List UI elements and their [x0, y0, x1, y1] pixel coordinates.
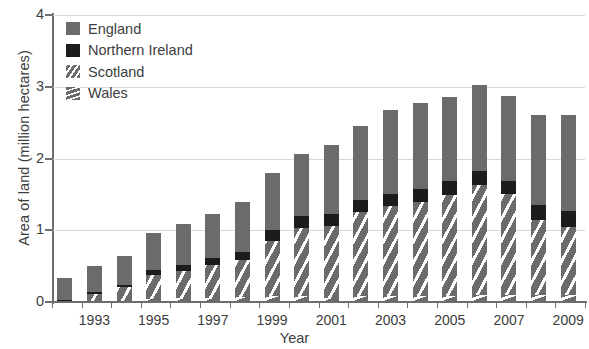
legend-swatch-icon: [66, 44, 80, 57]
x-tick-mark: [259, 301, 260, 308]
x-tick-mark: [141, 301, 142, 308]
bar-segment: [383, 194, 398, 206]
bar-segment: [146, 270, 161, 275]
bar-segment: [324, 214, 339, 226]
bar-stack: [265, 15, 280, 302]
bar-segment: [294, 216, 309, 228]
bar-segment: [235, 297, 250, 302]
bar-segment: [87, 294, 102, 301]
bar-segment: [501, 295, 516, 302]
legend-swatch-icon: [66, 22, 80, 35]
x-tick-label: 1997: [197, 312, 228, 328]
bar-segment: [265, 296, 280, 302]
y-tick-label: 0: [22, 294, 44, 309]
y-tick-mark: [45, 229, 53, 231]
bar-stack: [442, 15, 457, 302]
x-tick-mark: [289, 301, 290, 308]
bar-stack: [531, 15, 546, 302]
bar-segment: [57, 278, 72, 300]
bar-segment: [353, 126, 368, 201]
x-axis-title: Year: [0, 330, 589, 346]
bar-segment: [205, 298, 220, 302]
bar-segment: [531, 205, 546, 220]
bar-stack: [324, 15, 339, 302]
bar-stack: [472, 15, 487, 302]
bar-segment: [205, 258, 220, 264]
legend-item: Scotland: [66, 61, 256, 83]
bar-segment: [57, 301, 72, 302]
x-tick-mark: [230, 301, 231, 308]
bar-segment: [235, 252, 250, 260]
y-tick-label: 4: [22, 7, 44, 22]
bar-segment: [87, 301, 102, 302]
x-tick-label: 2005: [434, 312, 465, 328]
x-tick-mark: [170, 301, 171, 308]
bar-segment: [176, 224, 191, 266]
x-tick-label: 2007: [493, 312, 524, 328]
y-tick-label: 3: [22, 79, 44, 94]
bar-segment: [472, 185, 487, 295]
bar-segment: [117, 256, 132, 285]
bar-segment: [531, 220, 546, 295]
bar-segment: [57, 300, 72, 301]
legend-swatch-icon: [66, 87, 80, 100]
bar-stack: [501, 15, 516, 302]
bar-segment: [265, 241, 280, 296]
legend-item: Northern Ireland: [66, 40, 256, 62]
bar-segment: [501, 194, 516, 295]
bar-segment: [176, 298, 191, 302]
bar-segment: [294, 154, 309, 216]
bar-segment: [472, 171, 487, 185]
bar-segment: [294, 228, 309, 296]
bar-segment: [117, 287, 132, 301]
bar-segment: [442, 195, 457, 295]
x-tick-mark: [319, 301, 320, 308]
bar-segment: [87, 292, 102, 294]
legend-item: Wales: [66, 83, 256, 105]
bar-segment: [87, 266, 102, 292]
x-tick-mark: [585, 301, 586, 308]
bar-segment: [413, 103, 428, 188]
x-tick-mark: [437, 301, 438, 308]
bar-segment: [561, 295, 576, 302]
y-tick-label: 1: [22, 222, 44, 237]
x-tick-mark: [111, 301, 112, 308]
x-tick-label: 1995: [138, 312, 169, 328]
bar-segment: [353, 296, 368, 302]
legend-item: England: [66, 18, 256, 40]
legend-item-label: Scotland: [88, 65, 144, 80]
bar-segment: [117, 301, 132, 302]
x-tick-label: 1993: [79, 312, 110, 328]
x-tick-mark: [467, 301, 468, 308]
x-tick-label: 1999: [257, 312, 288, 328]
bar-segment: [324, 298, 339, 302]
x-tick-label: 2003: [375, 312, 406, 328]
bar-segment: [146, 275, 161, 299]
bar-segment: [176, 271, 191, 298]
bar-segment: [413, 296, 428, 302]
bar-segment: [383, 206, 398, 296]
bar-segment: [353, 212, 368, 296]
bar-segment: [235, 260, 250, 297]
bar-segment: [561, 227, 576, 295]
bar-segment: [146, 299, 161, 302]
bar-stack: [413, 15, 428, 302]
legend-item-label: Northern Ireland: [88, 43, 193, 58]
bar-stack: [353, 15, 368, 302]
bar-segment: [442, 296, 457, 302]
bar-segment: [413, 202, 428, 296]
legend-swatch-icon: [66, 65, 80, 78]
bar-segment: [294, 296, 309, 302]
bar-segment: [117, 285, 132, 287]
y-tick-mark: [45, 158, 53, 160]
x-tick-mark: [407, 301, 408, 308]
x-tick-mark: [348, 301, 349, 308]
bar-segment: [324, 145, 339, 214]
x-tick-mark: [378, 301, 379, 308]
bar-segment: [472, 295, 487, 302]
bar-segment: [265, 230, 280, 241]
bar-segment: [561, 211, 576, 227]
x-tick-label: 2001: [316, 312, 347, 328]
bar-segment: [561, 115, 576, 210]
bar-segment: [205, 265, 220, 298]
